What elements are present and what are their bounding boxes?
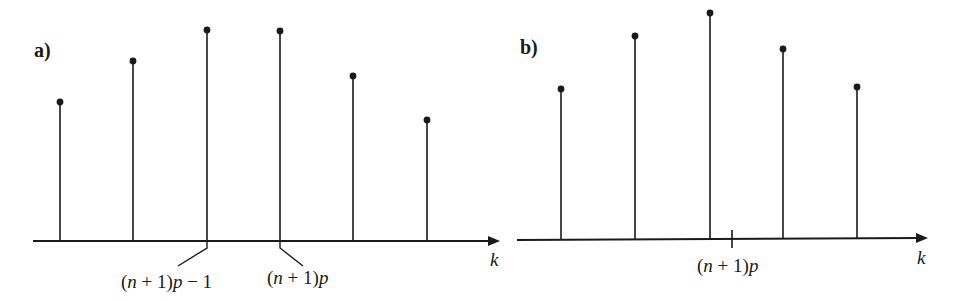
stem-dot (204, 27, 211, 34)
stem-dot (277, 28, 284, 35)
annotation-np-minus-1: (n + 1)p − 1 (121, 271, 212, 293)
stem-dot (707, 10, 714, 17)
stem-dot (130, 58, 137, 65)
leader-line-a1 (178, 241, 207, 266)
panel-a-label: a) (34, 39, 51, 62)
x-axis-b (517, 238, 920, 240)
leader-line-a2 (280, 241, 303, 266)
stems-b (558, 10, 861, 240)
annotation-np-b: (n + 1)p (697, 255, 758, 277)
axis-arrow-a-icon (488, 236, 500, 246)
axis-label-b: k (917, 247, 926, 268)
stem-dot (558, 86, 565, 93)
stem-dot (780, 46, 787, 53)
annotation-np: (n + 1)p (267, 267, 328, 289)
binomial-mode-figure: a) k (n + 1)p − 1 (n + 1)p b) k (0, 0, 957, 302)
panel-a: a) k (n + 1)p − 1 (n + 1)p (33, 27, 500, 293)
panel-b: b) k (n + 1)p (517, 10, 928, 277)
stem-dot (424, 117, 431, 124)
stem-dot (632, 33, 639, 40)
stem-dot (350, 73, 357, 80)
stem-dot (57, 99, 64, 106)
axis-label-a: k (490, 249, 499, 270)
panel-b-label: b) (520, 36, 538, 59)
stems-a (57, 27, 431, 241)
stem-dot (854, 84, 861, 91)
axis-arrow-b-icon (916, 233, 928, 243)
